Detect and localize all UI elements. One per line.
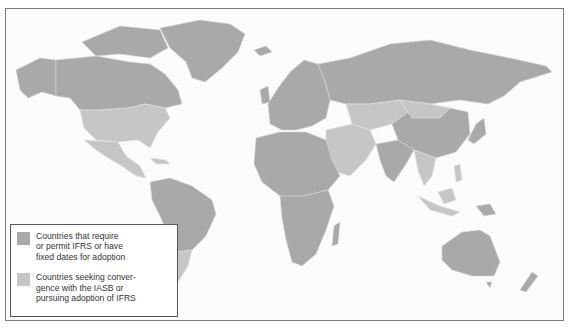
- region-philippines: [454, 164, 462, 182]
- region-russia: [318, 40, 552, 104]
- region-madagascar: [332, 222, 340, 246]
- region-uk: [260, 86, 270, 104]
- region-canada: [56, 56, 182, 110]
- region-arctic-islands: [82, 26, 168, 58]
- region-greenland: [160, 20, 245, 82]
- legend-item-seeking-convergence: Countries seeking conver- gence with the…: [17, 272, 171, 303]
- region-borneo: [438, 188, 456, 204]
- map-legend: Countries that require or permit IFRS or…: [10, 224, 178, 317]
- legend-label: Countries that require or permit IFRS or…: [36, 231, 125, 262]
- legend-label: Countries seeking conver- gence with the…: [36, 272, 136, 303]
- region-japan: [468, 118, 486, 144]
- region-africa-south: [280, 190, 334, 266]
- region-alaska: [16, 58, 56, 98]
- legend-item-require-permit: Countries that require or permit IFRS or…: [17, 231, 171, 262]
- region-png: [476, 204, 496, 216]
- region-mexico: [84, 140, 146, 178]
- region-tasmania: [486, 282, 492, 288]
- legend-swatch-light: [17, 273, 30, 286]
- region-india: [376, 140, 414, 182]
- region-new-zealand: [520, 272, 538, 292]
- region-australia: [442, 230, 500, 276]
- region-iceland: [254, 46, 272, 56]
- legend-swatch-dark: [17, 232, 30, 245]
- region-caribbean: [150, 158, 170, 164]
